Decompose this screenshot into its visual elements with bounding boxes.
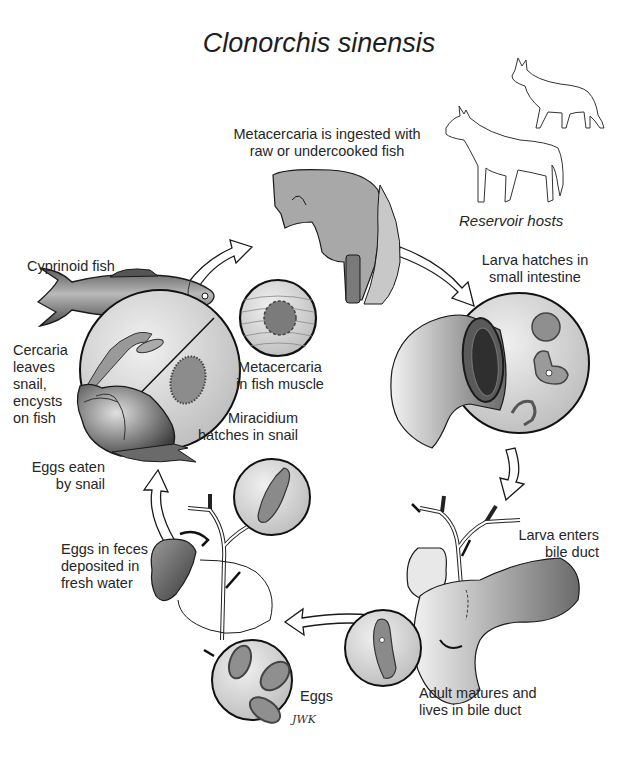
cycle-arrow-intestine-to-bileduct — [500, 448, 524, 500]
label-larva-hatches-line1: Larva hatches in — [470, 252, 600, 269]
label-cercaria-line1: Cercaria — [13, 342, 68, 359]
adult-fluke-circle — [345, 610, 421, 686]
label-ingestion-line2: raw or undercooked fish — [232, 143, 422, 160]
metacercaria-muscle-circle — [240, 280, 316, 356]
label-larva-enters-line1: Larva enters — [506, 527, 599, 544]
eggs-circle — [212, 640, 295, 728]
label-metacercaria-line1: Metacercaria — [230, 359, 330, 376]
label-eggs-feces: Eggs in feces deposited in fresh water — [61, 541, 148, 592]
label-eggs-feces-line3: fresh water — [61, 575, 148, 592]
label-cercaria: Cercaria leaves snail, encysts on fish — [13, 342, 68, 427]
label-metacercaria-muscle: Metacercaria in fish muscle — [230, 359, 330, 393]
intestine-icon — [391, 315, 507, 448]
lifecycle-diagram: Clonorchis sinensis — [0, 0, 638, 762]
label-metacercaria-line2: in fish muscle — [230, 376, 330, 393]
label-eggs-eaten-line2: by snail — [30, 476, 105, 493]
label-eggs-feces-line2: deposited in — [61, 558, 148, 575]
dog-icon — [446, 106, 563, 202]
label-eggs-eaten-line1: Eggs eaten — [30, 459, 105, 476]
label-reservoir-hosts: Reservoir hosts — [459, 212, 563, 229]
cycle-arrow-water-to-snail — [144, 470, 175, 545]
label-cyprinoid-fish: Cyprinoid fish — [27, 258, 115, 275]
miracidium-circle — [234, 459, 310, 535]
label-larva-enters: Larva enters bile duct — [506, 527, 599, 561]
label-ingestion: Metacercaria is ingested with raw or und… — [232, 126, 422, 160]
label-eggs: Eggs — [300, 688, 333, 705]
label-eggs-feces-line1: Eggs in feces — [61, 541, 148, 558]
cat-icon — [512, 58, 604, 128]
label-larva-hatches: Larva hatches in small intestine — [470, 252, 600, 286]
label-larva-hatches-line2: small intestine — [470, 269, 600, 286]
artist-signature: JWK — [292, 713, 316, 726]
label-eggs-eaten: Eggs eaten by snail — [30, 459, 105, 493]
cycle-arrow-head-to-intestine — [398, 247, 474, 306]
label-adult-matures: Adult matures and lives in bile duct — [419, 685, 537, 719]
label-miracidium-line2: hatches in snail — [198, 427, 298, 444]
label-cercaria-line4: encysts — [13, 393, 68, 410]
label-adult-matures-line2: lives in bile duct — [419, 702, 537, 719]
label-ingestion-line1: Metacercaria is ingested with — [232, 126, 422, 143]
label-larva-enters-line2: bile duct — [506, 544, 599, 561]
cycle-arrow-fish-to-head — [188, 240, 252, 288]
label-adult-matures-line1: Adult matures and — [419, 685, 537, 702]
label-miracidium: Miracidium hatches in snail — [198, 410, 298, 444]
label-cercaria-line5: on fish — [13, 410, 68, 427]
label-cercaria-line3: snail, — [13, 376, 68, 393]
label-cercaria-line2: leaves — [13, 359, 68, 376]
label-miracidium-line1: Miracidium — [198, 410, 298, 427]
